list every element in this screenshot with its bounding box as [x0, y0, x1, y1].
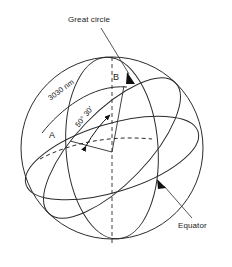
radius-to-a [70, 141, 112, 152]
equator-label: Equator [178, 222, 207, 230]
point-b-label: B [113, 73, 119, 82]
great-circle-leader-line [101, 28, 129, 74]
great-circle-label: Great circle [68, 16, 110, 24]
equator-hidden-dashed [40, 138, 152, 159]
equator-leader-arrowhead [157, 179, 166, 189]
equator-leader-line [164, 186, 192, 218]
point-a-label: A [49, 131, 55, 140]
great-circle-leader-arrowhead [126, 72, 135, 84]
